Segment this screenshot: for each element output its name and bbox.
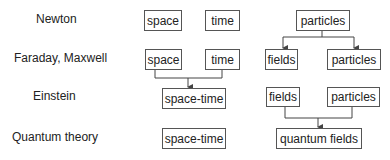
box-time: time bbox=[205, 10, 240, 31]
box-space: space bbox=[145, 49, 182, 70]
split-connector bbox=[283, 31, 354, 48]
box-particles: particles bbox=[296, 10, 350, 31]
row-label-newton: Newton bbox=[36, 12, 77, 26]
row-label-einstein: Einstein bbox=[33, 89, 76, 103]
box-space-time: space-time bbox=[162, 128, 226, 149]
merge-connector-quantum-fields bbox=[285, 107, 352, 127]
box-fields: fields bbox=[265, 49, 298, 70]
box-time: time bbox=[205, 49, 240, 70]
box-space-time: space-time bbox=[162, 88, 226, 109]
box-space: space bbox=[144, 10, 182, 31]
box-fields: fields bbox=[266, 87, 300, 107]
merge-connector-spacetime bbox=[155, 70, 222, 87]
box-quantum-fields: quantum fields bbox=[276, 128, 362, 149]
box-particles: particles bbox=[327, 49, 381, 70]
box-particles: particles bbox=[327, 87, 380, 107]
row-label-quantum-theory: Quantum theory bbox=[12, 130, 98, 144]
row-label-faraday-maxwell: Faraday, Maxwell bbox=[14, 51, 107, 65]
